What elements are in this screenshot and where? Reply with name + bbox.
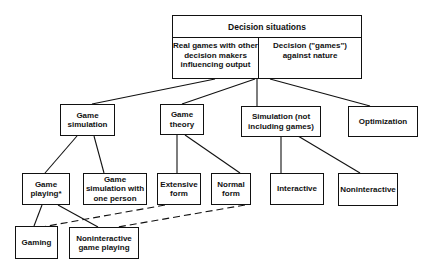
noninteractive-game-playing-box: Noninteractive game playing [69,227,139,259]
edge-game-playing-gaming [34,205,42,226]
game-theory-box: Game theory [160,104,204,135]
real-games-cell: Real games with other decision makers in… [173,38,259,79]
edge-dashed-normal-noninteractive [118,205,245,227]
game-playing-box: Game playing* [22,173,70,205]
edge-game-simulation-one-person [94,136,104,173]
edge-root-optimization [270,79,370,106]
edge-game-playing-noninteractive [58,205,98,227]
game-simulation-one-person-box: Game simulation with one person [83,173,147,205]
edge-dashed-extensive-gaming [42,205,165,227]
edge-game-simulation-game-playing [45,136,77,173]
root-title: Decision situations [173,16,361,38]
games-against-nature-cell: Decision ("games") against nature [259,38,361,79]
decision-situations-box: Decision situations Real games with othe… [172,15,362,79]
interactive-box: Interactive [270,173,324,205]
gaming-box: Gaming [15,226,58,259]
edge-game-theory-normal [185,135,240,173]
extensive-form-box: Extensive form [157,173,201,205]
noninteractive-box: Noninteractive [338,173,398,206]
optimization-box: Optimization [348,106,418,137]
edge-root-game-simulation [92,79,215,104]
edge-simulation-noninteractive [298,136,360,173]
game-simulation-box: Game simulation [60,104,115,136]
normal-form-box: Normal form [211,173,251,205]
simulation-box: Simulation (not including games) [241,106,321,137]
edge-root-game-theory [182,79,255,104]
